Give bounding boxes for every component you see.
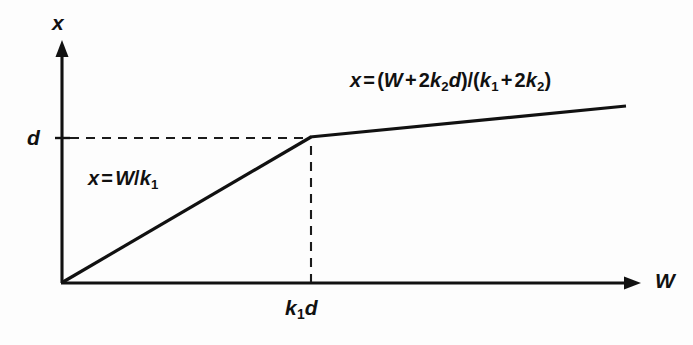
eq-upper-subscript-2a: 2 — [441, 79, 449, 94]
eq-upper-open-paren-1: ( — [377, 69, 384, 91]
curve-lower-segment — [63, 137, 311, 282]
x-axis-arrowhead-icon — [624, 277, 641, 290]
y-axis-tick-label-text: d — [27, 126, 40, 149]
k1d-k: k — [285, 296, 297, 319]
k1d-subscript-1: 1 — [297, 306, 305, 322]
eq-lower-k: k — [140, 167, 151, 189]
eq-upper-open-paren-2: ( — [473, 69, 480, 91]
y-axis-arrowhead-icon — [56, 40, 69, 57]
eq-upper-d: d — [449, 69, 461, 91]
x-axis-label-text: W — [655, 269, 675, 292]
y-axis-label-text: x — [52, 11, 64, 34]
eq-upper-x: x — [350, 69, 361, 91]
eq-upper-equals: = — [361, 69, 377, 91]
eq-lower-subscript-1: 1 — [151, 177, 159, 192]
eq-upper-close-paren-1: ) — [461, 69, 468, 91]
eq-upper-subscript-2c: 2 — [537, 79, 545, 94]
figure-container: x W d k1d x=W/k1 x=(W+2k2d)/(k1+2k2) — [0, 0, 693, 345]
equation-lower-segment: x=W/k1 — [88, 168, 158, 188]
y-axis-label: x — [52, 12, 64, 33]
eq-upper-plus-1: + — [403, 69, 419, 91]
eq-upper-W: W — [384, 69, 403, 91]
eq-upper-close-paren-2: ) — [544, 69, 551, 91]
eq-upper-plus-2: + — [499, 69, 515, 91]
eq-upper-coeff-2a: 2 — [419, 69, 430, 91]
k1d-d: d — [305, 296, 318, 319]
curve-upper-segment — [310, 106, 626, 137]
eq-upper-k-a: k — [430, 69, 441, 91]
eq-upper-k-b: k — [480, 69, 491, 91]
eq-upper-coeff-2b: 2 — [515, 69, 526, 91]
x-axis-label: W — [655, 270, 675, 291]
y-axis-tick-label-d: d — [27, 127, 40, 148]
x-axis-tick-label-k1d: k1d — [285, 297, 318, 318]
eq-upper-k-c: k — [526, 69, 537, 91]
eq-upper-subscript-1b: 1 — [491, 79, 499, 94]
equation-upper-segment: x=(W+2k2d)/(k1+2k2) — [350, 70, 551, 90]
eq-lower-W: W — [115, 167, 134, 189]
eq-lower-equals: = — [99, 167, 115, 189]
eq-lower-x: x — [88, 167, 99, 189]
